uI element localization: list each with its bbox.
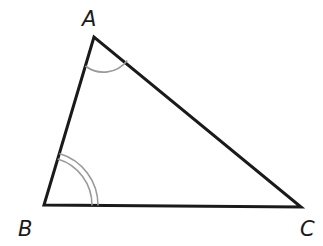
angle-arc-a [85, 61, 127, 73]
vertex-label-a: A [80, 7, 96, 31]
vertex-label-c: C [300, 217, 315, 241]
angle-arc-b-inner [58, 159, 92, 205]
vertex-label-b: B [18, 217, 32, 241]
triangle-diagram: A B C [0, 0, 323, 246]
triangle-abc [44, 37, 301, 207]
